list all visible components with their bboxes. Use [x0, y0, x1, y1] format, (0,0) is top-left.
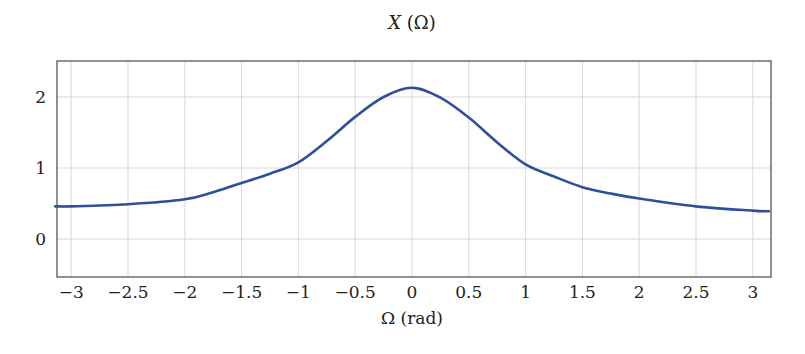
y-axis-ticks: 012 [35, 87, 46, 249]
x-tick-label: −1 [286, 282, 311, 302]
chart: X (Ω) −3−2.5−2−1.5−1−0.500.511.522.53 01… [0, 0, 805, 354]
x-tick-label: 2 [634, 282, 645, 302]
x-tick-label: 0.5 [455, 282, 482, 302]
x-axis-ticks: −3−2.5−2−1.5−1−0.500.511.522.53 [59, 282, 759, 302]
x-tick-label: −2 [172, 282, 197, 302]
y-tick-label: 0 [35, 229, 46, 249]
x-tick-label: −1.5 [221, 282, 262, 302]
grid [57, 61, 771, 277]
x-tick-label: 0 [407, 282, 418, 302]
x-tick-label: 3 [747, 282, 758, 302]
y-tick-label: 1 [35, 158, 46, 178]
axes-frame [57, 61, 771, 277]
x-tick-label: 2.5 [682, 282, 709, 302]
x-tick-label: 1.5 [569, 282, 596, 302]
y-tick-label: 2 [35, 87, 46, 107]
title-rest: (Ω) [401, 12, 436, 33]
x-tick-label: −3 [59, 282, 84, 302]
x-tick-label: −2.5 [107, 282, 148, 302]
x-axis-label: Ω (rad) [381, 308, 443, 328]
title-italic: X [386, 12, 402, 33]
title: X (Ω) [386, 12, 436, 33]
x-tick-label: 1 [520, 282, 531, 302]
x-tick-label: −0.5 [335, 282, 376, 302]
svg-text:X (Ω): X (Ω) [386, 12, 436, 33]
